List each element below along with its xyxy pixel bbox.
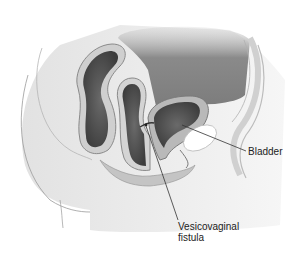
pelvis-illustration [0, 0, 300, 254]
fistula-label-line2: fistula [178, 232, 239, 243]
bladder-label: Bladder [248, 146, 282, 157]
fistula-label: Vesicovaginal fistula [178, 221, 239, 243]
fistula-label-line1: Vesicovaginal [178, 221, 239, 232]
